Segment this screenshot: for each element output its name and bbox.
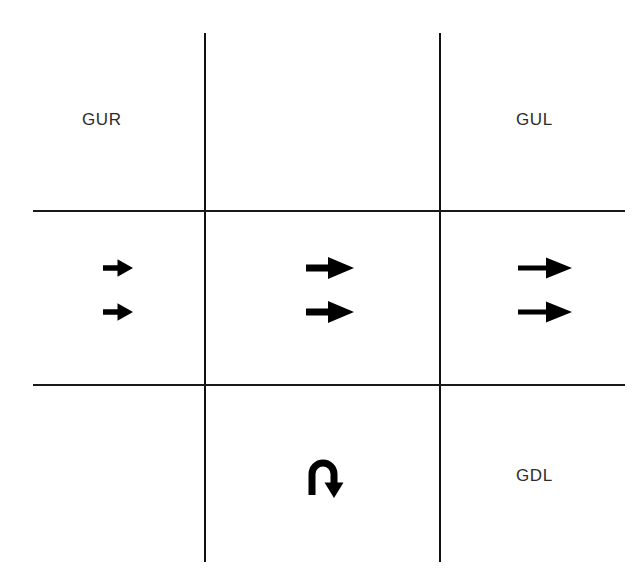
arrow-right-icon	[517, 300, 573, 324]
arrow-right-icon	[102, 302, 134, 322]
arrow-right-icon	[102, 258, 134, 278]
cell-label-top-left: GUR	[82, 110, 122, 130]
cell-label-bottom-right: GDL	[516, 466, 553, 486]
grid-horizontal-line-top	[33, 210, 625, 212]
arrow-right-icon	[305, 256, 355, 280]
grid-vertical-line-left	[204, 33, 206, 562]
diagram-canvas: GUR GUL GDL	[0, 0, 636, 579]
grid-vertical-line-right	[439, 33, 441, 562]
cell-label-top-right: GUL	[516, 110, 553, 130]
arrow-right-icon	[305, 300, 355, 324]
arrow-right-icon	[517, 256, 573, 280]
arrow-uturn-icon	[303, 455, 351, 503]
grid-horizontal-line-bottom	[33, 384, 625, 386]
